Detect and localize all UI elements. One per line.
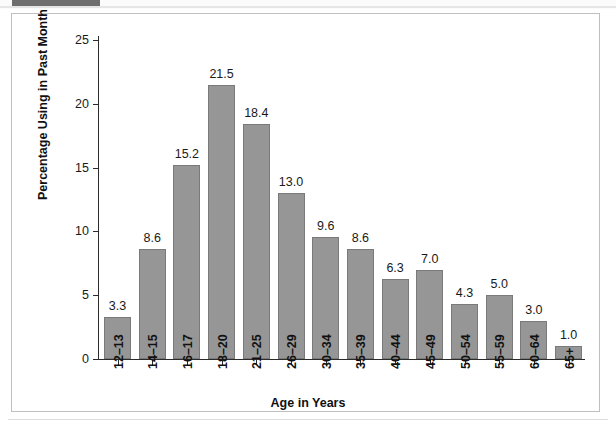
y-tick-5 — [93, 295, 98, 296]
y-tick-label: 10 — [75, 224, 89, 238]
x-category-label: 55–59 — [493, 334, 507, 369]
bar-value-label: 18.4 — [233, 106, 279, 120]
x-category-label: 60–64 — [528, 334, 542, 369]
bar-value-label: 3.0 — [511, 303, 557, 317]
bar — [173, 165, 200, 359]
x-category-label: 45–49 — [424, 334, 438, 369]
x-category-label: 40–44 — [389, 334, 403, 369]
x-category-label: 30–34 — [320, 334, 334, 369]
y-tick-25 — [93, 40, 98, 41]
x-category-label: 16–17 — [181, 334, 195, 369]
y-axis-title: Percentage Using in Past Month — [36, 9, 50, 200]
plot-area: 0510152025 3.38.615.221.518.413.09.68.66… — [98, 40, 585, 359]
y-tick-20 — [93, 104, 98, 105]
bar-value-label: 1.0 — [546, 328, 592, 342]
y-tick-label: 15 — [75, 161, 89, 175]
y-tick-0 — [93, 359, 98, 360]
bar-value-label: 3.3 — [95, 299, 141, 313]
y-tick-15 — [93, 168, 98, 169]
bar-value-label: 13.0 — [268, 175, 314, 189]
y-tick-label: 25 — [75, 33, 89, 47]
x-category-label: 21–25 — [250, 334, 264, 369]
x-category-label: 18–20 — [216, 334, 230, 369]
x-category-label: 12–13 — [112, 334, 126, 369]
bar — [208, 85, 235, 359]
bar — [243, 124, 270, 359]
x-category-label: 35–39 — [354, 334, 368, 369]
x-axis-line — [98, 359, 585, 360]
bar-value-label: 21.5 — [199, 67, 245, 81]
scan-artifact-strip — [0, 0, 616, 9]
x-category-label: 50–54 — [459, 334, 473, 369]
bar-value-label: 8.6 — [129, 231, 175, 245]
y-tick-10 — [93, 231, 98, 232]
x-axis-title: Age in Years — [0, 396, 616, 410]
y-tick-label: 20 — [75, 97, 89, 111]
bar-value-label: 15.2 — [164, 147, 210, 161]
page-bottom-rule — [8, 419, 608, 420]
bar-value-label: 5.0 — [476, 277, 522, 291]
y-tick-label: 5 — [82, 288, 89, 302]
scan-artifact-line — [0, 6, 616, 8]
bar-value-label: 8.6 — [337, 231, 383, 245]
x-category-label: 14–15 — [146, 334, 160, 369]
chart-figure-frame: Percentage Using in Past Month 051015202… — [11, 13, 600, 412]
x-category-label: 26–29 — [285, 334, 299, 369]
bar-value-label: 7.0 — [407, 252, 453, 266]
x-category-label: 65+ — [563, 348, 577, 369]
y-tick-label: 0 — [82, 352, 89, 366]
